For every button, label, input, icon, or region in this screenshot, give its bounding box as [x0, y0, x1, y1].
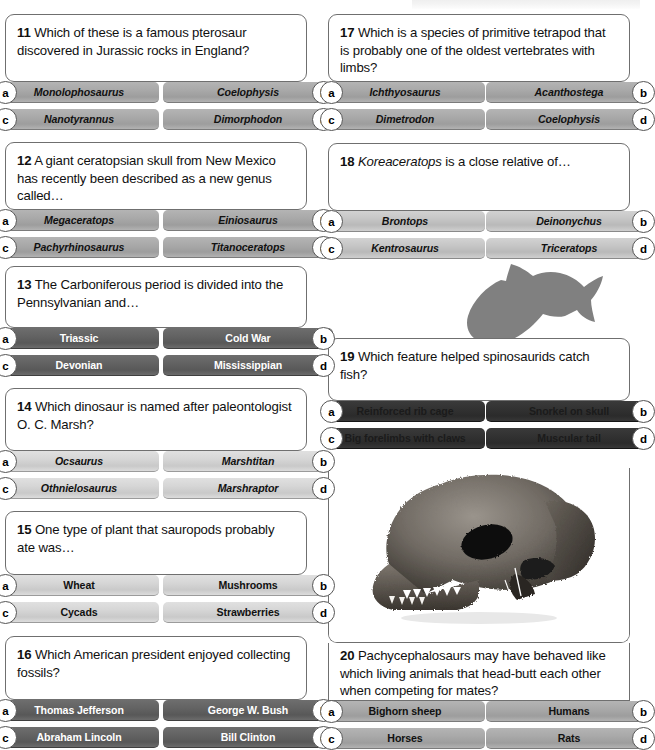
option-b-18[interactable]: Deinonychus: [486, 211, 652, 232]
option-c-19[interactable]: Big forelimbs with claws: [325, 428, 485, 449]
option-a-16[interactable]: Thomas Jefferson: [0, 700, 159, 721]
badge-a-18: a: [320, 210, 343, 233]
question-text-20: 20 Pachycephalosaurs may have behaved li…: [340, 647, 618, 700]
question-body-18: is a close relative of…: [442, 154, 571, 169]
question-text-11: 11 Which of these is a famous pterosaur …: [17, 24, 295, 59]
answer-row-ab-19: a Reinforced rib cage Snorkel on skull b: [328, 400, 630, 426]
question-number-15: 15: [17, 522, 31, 537]
badge-b-17: b: [632, 81, 655, 104]
option-b-20[interactable]: Humans: [486, 701, 652, 722]
question-box-18: 18 Koreaceratops is a close relative of…: [328, 143, 630, 211]
option-a-17[interactable]: Ichthyosaurus: [325, 82, 485, 103]
answer-row-cd-13: c Devonian Mississippian d: [5, 354, 307, 380]
question-card-15: 15 One type of plant that sauropods prob…: [5, 511, 307, 627]
badge-d-19: d: [632, 427, 655, 450]
badge-c-18: c: [320, 237, 343, 260]
badge-d-20: d: [632, 727, 655, 750]
badge-a-19: a: [320, 400, 343, 423]
option-a-11[interactable]: Monolophosaurus: [0, 82, 159, 103]
question-card-19: 19 Which feature helped spinosaurids cat…: [328, 338, 630, 453]
option-a-19[interactable]: Reinforced rib cage: [325, 401, 485, 422]
option-d-14[interactable]: Marshraptor: [163, 478, 333, 499]
question-text-13: 13 The Carboniferous period is divided i…: [17, 276, 295, 311]
option-b-12[interactable]: Einiosaurus: [163, 210, 333, 231]
badge-d-13: d: [312, 354, 335, 377]
option-a-13[interactable]: Triassic: [0, 328, 159, 349]
option-b-17[interactable]: Acanthostega: [486, 82, 652, 103]
answer-row-ab-15: a Wheat Mushrooms b: [5, 574, 307, 600]
question-body-12: A giant ceratopsian skull from New Mexic…: [17, 153, 276, 203]
question-body-20: Pachycephalosaurs may have behaved like …: [340, 648, 606, 698]
badge-b-15: b: [312, 574, 335, 597]
question-text-12: 12 A giant ceratopsian skull from New Me…: [17, 152, 295, 205]
question-number-13: 13: [17, 277, 31, 292]
question-number-17: 17: [340, 25, 354, 40]
option-b-11[interactable]: Coelophysis: [163, 82, 333, 103]
answer-row-cd-15: c Cycads Strawberries d: [5, 601, 307, 627]
question-card-14: 14 Which dinosaur is named after paleont…: [5, 388, 307, 503]
badge-b-14: b: [312, 450, 335, 473]
option-d-15[interactable]: Strawberries: [163, 602, 333, 623]
question-text-17: 17 Which is a species of primitive tetra…: [340, 24, 618, 77]
badge-c-20: c: [320, 727, 343, 750]
option-a-14[interactable]: Ocsaurus: [0, 451, 159, 472]
option-c-15[interactable]: Cycads: [0, 602, 159, 623]
option-c-11[interactable]: Nanotyrannus: [0, 109, 159, 130]
question-text-18: 18 Koreaceratops is a close relative of…: [340, 153, 618, 171]
question-number-11: 11: [17, 25, 31, 40]
option-c-20[interactable]: Horses: [325, 728, 485, 749]
option-a-20[interactable]: Bighorn sheep: [325, 701, 485, 722]
option-c-17[interactable]: Dimetrodon: [325, 109, 485, 130]
answer-row-cd-16: c Abraham Lincoln Bill Clinton d: [5, 726, 307, 750]
answer-row-ab-11: a Monolophosaurus Coelophysis b: [5, 81, 307, 107]
option-c-13[interactable]: Devonian: [0, 355, 159, 376]
option-c-16[interactable]: Abraham Lincoln: [0, 727, 159, 748]
option-d-20[interactable]: Rats: [486, 728, 652, 749]
answer-row-ab-16: a Thomas Jefferson George W. Bush b: [5, 699, 307, 725]
option-a-15[interactable]: Wheat: [0, 575, 159, 596]
badge-b-18: b: [632, 210, 655, 233]
question-card-17: 17 Which is a species of primitive tetra…: [328, 14, 630, 134]
option-c-12[interactable]: Pachyrhinosaurus: [0, 237, 159, 258]
question-body-19: Which feature helped spinosaurids catch …: [340, 349, 590, 382]
option-b-13[interactable]: Cold War: [163, 328, 333, 349]
option-b-19[interactable]: Snorkel on skull: [486, 401, 652, 422]
option-a-12[interactable]: Megaceratops: [0, 210, 159, 231]
question-card-18: 18 Koreaceratops is a close relative of……: [328, 143, 630, 263]
option-d-18[interactable]: Triceratops: [486, 238, 652, 259]
question-box-17: 17 Which is a species of primitive tetra…: [328, 14, 630, 82]
answer-row-ab-20: a Bighorn sheep Humans b: [328, 700, 630, 726]
answer-row-cd-12: c Pachyrhinosaurus Titanoceratops d: [5, 236, 307, 262]
badge-a-17: a: [320, 81, 343, 104]
question-body-15: One type of plant that sauropods probabl…: [17, 522, 274, 555]
option-d-11[interactable]: Dimorphodon: [163, 109, 333, 130]
question-italic-lead-18: Koreaceratops: [358, 154, 442, 169]
option-d-19[interactable]: Muscular tail: [486, 428, 652, 449]
option-c-14[interactable]: Othnielosaurus: [0, 478, 159, 499]
badge-b-20: b: [632, 700, 655, 723]
question-text-14: 14 Which dinosaur is named after paleont…: [17, 398, 295, 433]
option-d-16[interactable]: Bill Clinton: [163, 727, 333, 748]
option-b-15[interactable]: Mushrooms: [163, 575, 333, 596]
option-d-12[interactable]: Titanoceratops: [163, 237, 333, 258]
answer-row-cd-20: c Horses Rats d: [328, 727, 630, 750]
option-b-16[interactable]: George W. Bush: [163, 700, 333, 721]
option-d-17[interactable]: Coelophysis: [486, 109, 652, 130]
badge-d-17: d: [632, 108, 655, 131]
option-c-18[interactable]: Kentrosaurus: [325, 238, 485, 259]
badge-c-17: c: [320, 108, 343, 131]
option-b-14[interactable]: Marshtitan: [163, 451, 333, 472]
answer-row-cd-11: c Nanotyrannus Dimorphodon d: [5, 108, 307, 134]
question-number-14: 14: [17, 399, 31, 414]
option-d-13[interactable]: Mississippian: [163, 355, 333, 376]
question-box-20: 20 Pachycephalosaurs may have behaved li…: [328, 643, 630, 701]
question-card-20: 20 Pachycephalosaurs may have behaved li…: [328, 643, 630, 750]
question-card-16: 16 Which American president enjoyed coll…: [5, 636, 307, 750]
question-box-16: 16 Which American president enjoyed coll…: [5, 636, 307, 700]
option-a-18[interactable]: Brontops: [325, 211, 485, 232]
badge-d-15: d: [312, 601, 335, 624]
badge-d-14: d: [312, 477, 335, 500]
answer-row-ab-17: a Ichthyosaurus Acanthostega b: [328, 81, 630, 107]
question-box-14: 14 Which dinosaur is named after paleont…: [5, 388, 307, 451]
answer-row-cd-17: c Dimetrodon Coelophysis d: [328, 108, 630, 134]
